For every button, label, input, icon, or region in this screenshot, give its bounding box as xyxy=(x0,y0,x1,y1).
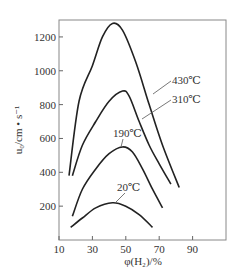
y-tick-label: 1000 xyxy=(34,65,57,77)
y-tick-label: 400 xyxy=(40,166,57,178)
y-tick-label: 200 xyxy=(40,200,57,212)
label-leader xyxy=(115,193,125,203)
x-tick-label: 70 xyxy=(154,243,166,255)
series-label: 190℃ xyxy=(113,127,142,139)
series-label: 20℃ xyxy=(117,181,140,193)
x-tick-label: 10 xyxy=(54,243,66,255)
y-tick-label: 600 xyxy=(40,132,57,144)
label-leader xyxy=(121,139,123,147)
series-label: 430℃ xyxy=(172,74,201,86)
chart: 1030507090 20040060080010001200 430℃310℃… xyxy=(0,0,241,276)
y-tick-label: 1200 xyxy=(34,31,57,43)
series-label: 310℃ xyxy=(172,93,201,105)
x-tick-label: 90 xyxy=(187,243,199,255)
label-leader xyxy=(153,81,171,94)
y-axis-label: u₀/cm • s⁻¹ xyxy=(12,106,24,155)
x-tick-label: 50 xyxy=(120,243,132,255)
series-curve-20 xyxy=(71,203,153,228)
x-axis-label: φ(H₂)/% xyxy=(124,255,162,268)
x-tick-label: 30 xyxy=(87,243,99,255)
y-tick-label: 800 xyxy=(40,99,57,111)
label-leader xyxy=(142,100,171,119)
